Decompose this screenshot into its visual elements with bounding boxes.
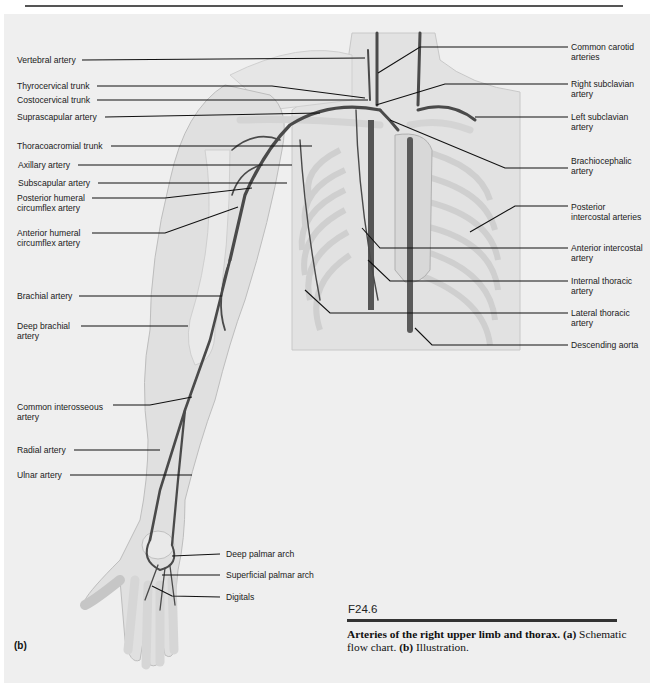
label-vertebral-artery: Vertebral artery (17, 55, 76, 65)
label-superficial-palmar-arch: Superficial palmar arch (226, 570, 314, 580)
label-suprascapular-artery: Suprascapular artery (17, 112, 97, 122)
label-digitals: Digitals (226, 592, 254, 602)
figure-caption-rule (347, 619, 617, 622)
label-right-subclavian-artery: Right subclavian artery (571, 79, 634, 100)
label-costocervical-trunk: Costocervical trunk (17, 95, 90, 105)
caption-part-a-label: (a) (563, 628, 576, 640)
label-subscapular-artery: Subscapular artery (18, 178, 90, 188)
label-ulnar-artery: Ulnar artery (17, 470, 62, 480)
label-posterior-intercostal-arteries: Posterior intercostal arteries (571, 202, 641, 223)
label-posterior-humeral-circumflex-artery: Posterior humeral circumflex artery (17, 193, 85, 214)
label-lateral-thoracic-artery: Lateral thoracic artery (571, 308, 630, 329)
label-anterior-humeral-circumflex-artery: Anterior humeral circumflex artery (17, 228, 81, 249)
arterial-illustration (0, 0, 662, 683)
label-common-carotid-arteries: Common carotid arteries (571, 42, 634, 63)
label-thoracoacromial-trunk: Thoracoacromial trunk (17, 141, 103, 151)
label-descending-aorta: Descending aorta (571, 340, 638, 350)
label-common-interosseous-artery: Common interosseous artery (17, 402, 103, 423)
sternum (368, 120, 374, 310)
caption-part-b-label: (b) (399, 641, 413, 653)
caption-part-b-text: Illustration. (416, 641, 469, 653)
label-thyrocervical-trunk: Thyrocervical trunk (17, 81, 90, 91)
label-deep-palmar-arch: Deep palmar arch (226, 549, 294, 559)
heart (395, 134, 432, 283)
label-radial-artery: Radial artery (17, 445, 66, 455)
label-axillary-artery: Axillary artery (18, 160, 70, 170)
label-internal-thoracic-artery: Internal thoracic artery (571, 276, 632, 297)
panel-label-b: (b) (14, 640, 27, 651)
label-left-subclavian-artery: Left subclavian artery (571, 112, 628, 133)
figure-caption: Arteries of the right upper limb and tho… (347, 628, 637, 654)
label-anterior-intercostal-artery: Anterior intercostal artery (571, 243, 643, 264)
caption-title: Arteries of the right upper limb and tho… (347, 628, 560, 640)
figure-number: F24.6 (348, 603, 377, 615)
label-brachiocephalic-artery: Brachiocephalic artery (571, 156, 632, 177)
label-deep-brachial-artery: Deep brachial artery (17, 321, 70, 342)
label-brachial-artery: Brachial artery (17, 291, 72, 301)
